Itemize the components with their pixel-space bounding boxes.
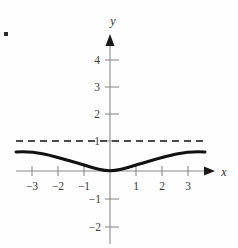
x-tick-label-2: 2 — [159, 180, 165, 192]
x-axis-arrowhead — [204, 167, 215, 176]
figure-container: −3 −2 −1 1 2 3 4 3 2 1 −1 −2 x y — [0, 0, 238, 248]
y-tick-label-minus2: −2 — [89, 221, 101, 233]
y-axis-arrowhead — [106, 34, 115, 46]
x-tick-label-minus2: −2 — [52, 180, 64, 192]
y-tick-label-3: 3 — [94, 81, 100, 93]
y-tick-label-1: 1 — [94, 135, 100, 147]
y-tick-label-minus1: −1 — [89, 193, 101, 205]
x-axis-label: x — [220, 165, 227, 179]
x-tick-label-1: 1 — [133, 180, 139, 192]
graph-plot: −3 −2 −1 1 2 3 4 3 2 1 −1 −2 x y — [0, 0, 238, 248]
y-axis-label: y — [109, 14, 116, 28]
x-tick-label-minus3: −3 — [26, 180, 38, 192]
y-tick-label-2: 2 — [94, 108, 100, 120]
x-tick-label-minus1: −1 — [78, 180, 90, 192]
x-tick-label-3: 3 — [185, 180, 191, 192]
y-tick-label-4: 4 — [94, 54, 100, 66]
